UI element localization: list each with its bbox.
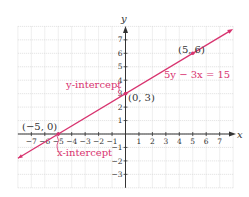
x-tick-label: 2 — [150, 137, 155, 146]
x-tick-label: −3 — [80, 137, 91, 146]
y-tick-label: −3 — [111, 170, 122, 179]
x-tick-label: 3 — [163, 137, 168, 146]
y-axis-arrow-icon — [123, 26, 128, 33]
line-arrow-right-icon — [227, 29, 233, 34]
x-axis-label: x — [237, 129, 243, 140]
point-label-neg5-0: (−5, 0) — [22, 121, 57, 132]
y-axis-label: y — [120, 13, 127, 24]
x-tick-label: 7 — [217, 137, 222, 146]
y-tick-label: 2 — [118, 103, 123, 112]
x-tick-label: 5 — [190, 137, 195, 146]
y-tick-label: 5 — [118, 62, 123, 71]
y-tick-label: −2 — [111, 157, 122, 166]
y-intercept-label: y-intercept — [65, 79, 121, 90]
equation-label: 5y − 3x = 15 — [164, 69, 230, 80]
y-tick-label: −1 — [111, 143, 122, 152]
x-tick-label: −2 — [93, 137, 104, 146]
data-point — [56, 132, 60, 136]
x-tick-label: −7 — [26, 137, 37, 146]
y-tick-label: 6 — [118, 49, 123, 58]
x-tick-label: 1 — [137, 137, 142, 146]
x-intercept-label: x-intercept — [57, 147, 112, 158]
y-tick-label: 1 — [118, 116, 123, 125]
x-axis-arrow-icon — [229, 132, 236, 137]
x-tick-label: 6 — [204, 137, 209, 146]
x-tick-label: −4 — [66, 137, 77, 146]
line-arrow-left-icon — [18, 154, 23, 158]
point-label-5-6: (5, 6) — [178, 44, 205, 55]
x-tick-label: 4 — [177, 137, 182, 146]
coordinate-plane: −7−6−5−4−3−2−11234567−3−2−11234567 x y (… — [0, 0, 249, 197]
data-point — [124, 92, 128, 96]
y-tick-label: 7 — [118, 35, 123, 44]
point-label-0-3: (0, 3) — [128, 92, 155, 103]
